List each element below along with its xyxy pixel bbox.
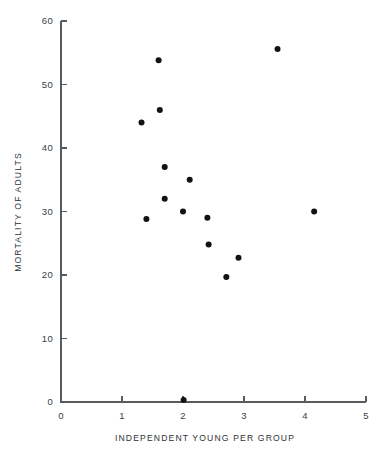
data-point-7 xyxy=(181,397,187,403)
plot-background xyxy=(0,0,384,458)
y-tick-label-10: 10 xyxy=(42,333,53,344)
y-tick-label-60: 60 xyxy=(42,15,53,26)
x-tick-label-2: 2 xyxy=(180,410,186,421)
x-tick-label-3: 3 xyxy=(241,410,247,421)
data-point-4 xyxy=(162,164,168,170)
y-tick-label-40: 40 xyxy=(42,142,53,153)
data-point-14 xyxy=(311,209,317,215)
x-tick-label-1: 1 xyxy=(119,410,125,421)
data-point-8 xyxy=(187,177,193,183)
data-point-9 xyxy=(204,215,210,221)
data-point-11 xyxy=(223,274,229,280)
data-point-2 xyxy=(156,57,162,63)
data-point-1 xyxy=(143,216,149,222)
data-point-5 xyxy=(162,196,168,202)
x-tick-label-5: 5 xyxy=(363,410,369,421)
data-point-3 xyxy=(157,107,163,113)
data-point-13 xyxy=(275,46,281,52)
x-axis-title: INDEPENDENT YOUNG PER GROUP xyxy=(115,433,295,443)
scatter-plot-figure: 0102030405060 012345 MORTALITY OF ADULTS… xyxy=(0,0,384,458)
data-point-0 xyxy=(139,120,145,126)
x-tick-label-0: 0 xyxy=(58,410,64,421)
data-point-12 xyxy=(236,255,242,261)
y-tick-label-20: 20 xyxy=(42,269,53,280)
y-tick-label-50: 50 xyxy=(42,79,53,90)
y-axis-title: MORTALITY OF ADULTS xyxy=(13,152,23,272)
data-point-6 xyxy=(180,209,186,215)
y-tick-label-0: 0 xyxy=(47,396,53,407)
data-point-10 xyxy=(206,242,212,248)
x-tick-label-4: 4 xyxy=(302,410,308,421)
y-tick-label-30: 30 xyxy=(42,206,53,217)
